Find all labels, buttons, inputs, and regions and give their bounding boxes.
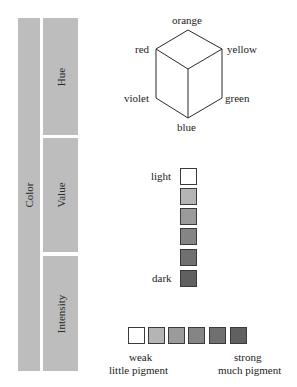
value-dark-label: dark [152, 272, 172, 284]
intensity-swatch-5 [209, 327, 226, 344]
value-swatch-3 [180, 208, 197, 225]
cube-label-red: red [135, 43, 149, 55]
value-light-label: light [151, 170, 171, 182]
intensity-swatch-3 [168, 327, 185, 344]
value-swatch-4 [180, 228, 197, 245]
cube-label-green: green [225, 92, 249, 104]
cube-label-blue: blue [177, 121, 196, 133]
value-swatch-2 [180, 188, 197, 205]
cube-label-violet: violet [124, 92, 149, 104]
intensity-much-pigment-label: much pigment [218, 364, 281, 376]
value-swatch-5 [180, 249, 197, 266]
value-swatch-1 [180, 168, 197, 185]
intensity-little-pigment-label: little pigment [109, 364, 168, 376]
cube-label-orange: orange [172, 14, 202, 26]
intensity-swatch-2 [148, 327, 165, 344]
cube-label-yellow: yellow [227, 43, 257, 55]
value-swatch-6 [180, 270, 197, 287]
intensity-swatch-1 [128, 327, 145, 344]
intensity-weak-label: weak [129, 351, 152, 363]
intensity-swatch-4 [188, 327, 205, 344]
intensity-strong-label: strong [234, 351, 262, 363]
intensity-swatch-6 [230, 327, 247, 344]
